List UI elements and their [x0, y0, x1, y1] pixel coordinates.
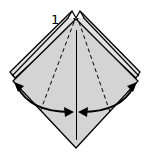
- diagram-canvas: [0, 0, 151, 160]
- origami-diagram: 1: [0, 0, 151, 160]
- step-number-label: 1: [51, 13, 59, 26]
- main-diamond: [13, 19, 138, 148]
